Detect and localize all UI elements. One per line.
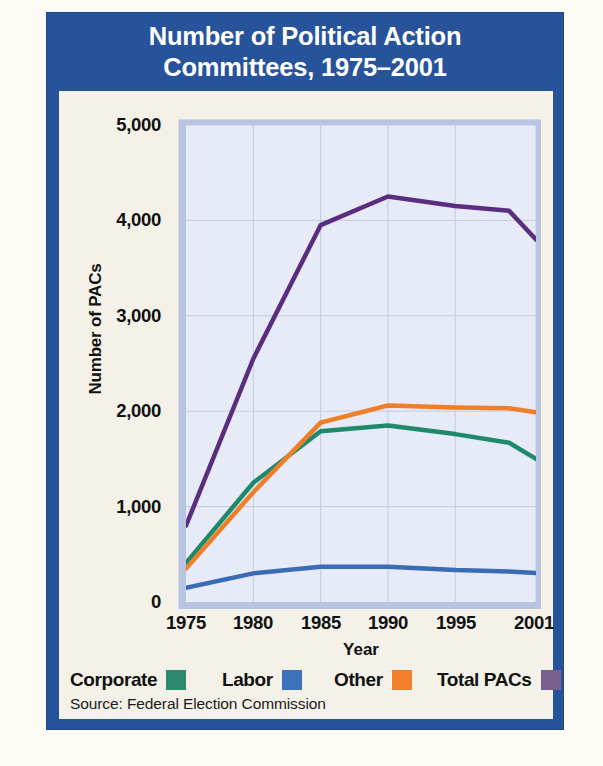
plot-area	[186, 125, 536, 602]
legend-label-total-pacs: Total PACs	[437, 669, 532, 691]
chart-frame: Number of Political Action Committees, 1…	[46, 12, 564, 730]
legend-swatch-total-pacs	[541, 670, 561, 690]
legend-swatch-corporate	[166, 670, 186, 690]
x-axis-ticks: 1975 1980 1985 1990 1995 2001	[59, 612, 553, 642]
y-tick-1000: 1,000	[79, 496, 161, 518]
legend-item-total-pacs: Total PACs	[437, 663, 561, 697]
gridlines	[186, 125, 536, 602]
legend-item-corporate: Corporate	[70, 663, 186, 697]
y-tick-0: 0	[79, 591, 161, 613]
series-line-labor	[186, 567, 536, 588]
x-tick-2001: 2001	[514, 612, 554, 634]
legend-label-other: Other	[334, 669, 383, 691]
x-tick-1975: 1975	[166, 612, 206, 634]
x-tick-1995: 1995	[436, 612, 476, 634]
x-tick-1990: 1990	[368, 612, 408, 634]
plot-wrapper: Number of PACs 5,000 4,000 3,000 2,000 1…	[59, 91, 553, 627]
series-line-corporate	[186, 426, 536, 563]
source-note: Source: Federal Election Commission	[70, 695, 326, 713]
series-line-total-pacs	[186, 197, 536, 526]
chart-figure: Number of Political Action Committees, 1…	[0, 0, 603, 766]
legend-item-labor: Labor	[222, 663, 302, 697]
legend-swatch-labor	[282, 670, 302, 690]
legend-label-labor: Labor	[222, 669, 273, 691]
y-axis-ticks: 5,000 4,000 3,000 2,000 1,000 0	[79, 91, 161, 627]
y-tick-4000: 4,000	[79, 209, 161, 231]
legend-item-other: Other	[334, 663, 412, 697]
chart-panel: Number of PACs 5,000 4,000 3,000 2,000 1…	[59, 91, 553, 719]
chart-title-line-2: Committees, 1975–2001	[163, 52, 447, 83]
chart-title-line-1: Number of Political Action	[149, 21, 462, 52]
x-tick-1985: 1985	[301, 612, 341, 634]
chart-title: Number of Political Action Committees, 1…	[47, 13, 563, 91]
legend-swatch-other	[392, 670, 412, 690]
plot-svg	[186, 125, 536, 602]
y-tick-3000: 3,000	[79, 305, 161, 327]
y-tick-2000: 2,000	[79, 400, 161, 422]
series-lines	[186, 197, 536, 588]
legend-label-corporate: Corporate	[70, 669, 157, 691]
x-axis-label: Year	[186, 640, 536, 660]
chart-legend: Corporate Labor Other Total PACs	[59, 663, 553, 697]
y-tick-5000: 5,000	[79, 114, 161, 136]
x-tick-1980: 1980	[233, 612, 273, 634]
